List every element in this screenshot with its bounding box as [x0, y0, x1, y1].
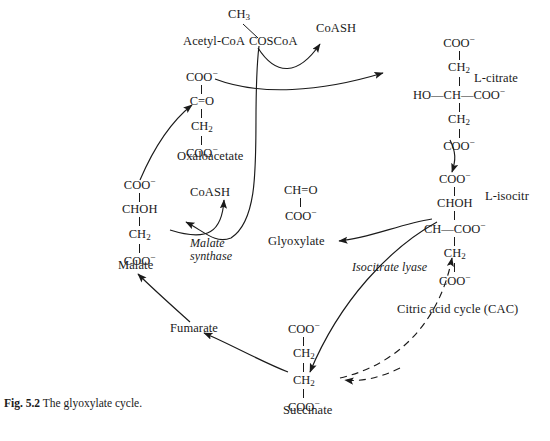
malate-synthase-line2: synthase	[190, 249, 232, 263]
malate-group-1: COO−	[124, 178, 156, 191]
glyoxylate-group-1: CH=O	[284, 184, 317, 197]
succinate-structure: COO− CH2 CH2 COO−	[288, 322, 320, 413]
succinate-group-2: CH2	[293, 347, 315, 361]
oxaloacetate-label: Oxaloacetate	[177, 150, 243, 163]
isocitrate-group-5: COO−	[439, 274, 471, 287]
bond	[454, 237, 455, 246]
citrate-group-4: CH2	[448, 113, 470, 127]
bond	[454, 263, 455, 272]
arrow-isocitrate-to-glyoxylate	[339, 219, 432, 241]
oaa-group-1: COO−	[186, 70, 218, 83]
oaa-group-2: C=O	[190, 95, 214, 108]
oxaloacetate-structure: COO− C=O CH2 COO−	[186, 70, 218, 160]
succinate-label: Succinate	[283, 404, 333, 417]
malate-label: Malate	[118, 259, 153, 272]
bond	[454, 211, 455, 220]
arrow-succinate-to-fumarate	[204, 333, 288, 372]
glyoxylate-structure: CH=O COO−	[284, 184, 317, 222]
citrate-structure: COO− CH2 HO—CH—COO− CH2 COO−	[413, 36, 505, 153]
enzyme-isocitrate-lyase: Isocitrate lyase	[352, 261, 427, 274]
isocitrate-group-2: CHOH	[437, 197, 472, 210]
citrate-group-1: COO−	[443, 36, 475, 49]
isocitrate-group-1: COO−	[439, 172, 471, 185]
glyoxylate-cycle-diagram: CH3 Acetyl-CoA COSCoA CoASH COO− C=O CH2…	[0, 0, 550, 441]
arrow-cac-dashed-to-succinate	[345, 368, 400, 381]
arrow-acetylcoa-to-citrate	[215, 73, 383, 90]
arrow-malate-to-oxaloacetate	[140, 105, 192, 180]
bond	[139, 244, 140, 253]
figure-number: Fig. 5.2	[4, 397, 40, 409]
citrate-group-2: CH2	[448, 61, 470, 75]
bond	[303, 337, 304, 346]
acetyl-coa-label: Acetyl-CoA	[183, 35, 245, 48]
coash-mid-label: CoASH	[190, 186, 230, 199]
figure-caption: Fig. 5.2 The glyoxylate cycle.	[4, 396, 154, 410]
bond	[139, 193, 140, 202]
succinate-group-1: COO−	[288, 322, 320, 335]
citrate-group-5: COO−	[443, 139, 475, 152]
isocitrate-group-4: CH2	[444, 247, 466, 261]
coscoa-group: COSCoA	[249, 35, 298, 48]
ch3-group: CH3	[228, 8, 250, 23]
glyoxylate-group-2: COO−	[285, 209, 317, 222]
enzyme-malate-synthase: Malate synthase	[190, 237, 232, 264]
bond	[459, 129, 460, 138]
isocitrate-group-3: CH—COO−	[424, 222, 486, 235]
malate-synthase-line1: Malate	[190, 236, 225, 250]
bond	[459, 103, 460, 112]
malate-group-2: CHOH	[122, 203, 157, 216]
citrate-group-3: HO—CH—COO−	[413, 88, 505, 101]
cac-label: Citric acid cycle (CAC)	[397, 303, 518, 316]
bond	[303, 389, 304, 398]
arrow-release-coash-mid	[170, 200, 224, 235]
figure-caption-text: The glyoxylate cycle.	[43, 397, 142, 409]
bond	[139, 217, 140, 226]
bond	[459, 51, 460, 60]
citrate-label: L-citrate	[474, 72, 518, 85]
bond	[454, 187, 455, 196]
bond	[300, 198, 301, 207]
succinate-group-3: CH2	[293, 374, 315, 388]
malate-structure: COO− CHOH CH2 COO−	[122, 178, 157, 268]
isocitrate-structure: COO− CHOH CH—COO− CH2 COO−	[424, 172, 486, 287]
bond	[201, 109, 202, 118]
arrow-isocitrate-to-succinate	[310, 222, 437, 372]
bond	[459, 77, 460, 86]
isocitrate-label: L-isocitr	[485, 190, 529, 203]
bond	[201, 136, 202, 145]
oaa-group-3: CH2	[191, 120, 213, 134]
arrow-fumarate-to-malate	[138, 274, 190, 322]
glyoxylate-label: Glyoxylate	[268, 235, 325, 248]
coash-top-label: CoASH	[316, 22, 356, 35]
fumarate-label: Fumarate	[170, 322, 218, 335]
malate-group-3: CH2	[129, 228, 151, 242]
bond	[303, 363, 304, 372]
bond	[201, 85, 202, 94]
